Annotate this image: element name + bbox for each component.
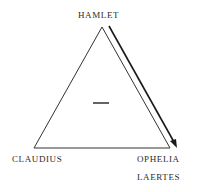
node-claudius: CLAUDIUS (12, 154, 62, 164)
node-laertes: LAERTES (137, 172, 180, 182)
triangle-shape (34, 27, 170, 148)
arrow-icon (109, 26, 177, 148)
node-hamlet: HAMLET (78, 10, 119, 20)
triangle-diagram: HAMLET CLAUDIUS OPHELIA LAERTES (0, 0, 197, 192)
node-ophelia: OPHELIA (137, 154, 180, 164)
